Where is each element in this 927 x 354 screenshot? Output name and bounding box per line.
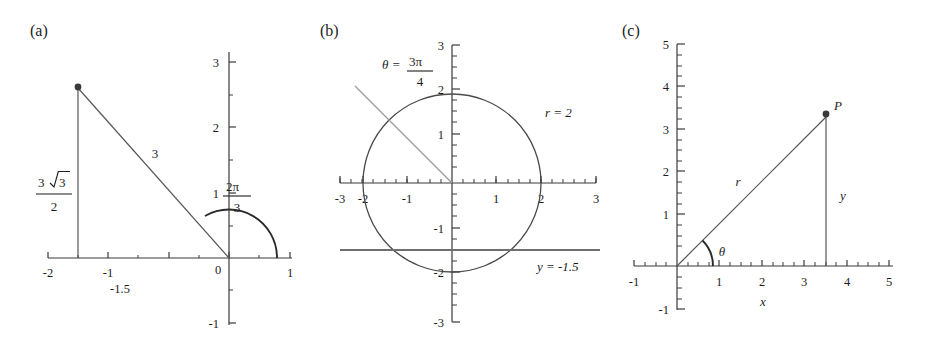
panel-c-ytick-3: 3 bbox=[663, 123, 669, 137]
panel-a-xtick--1: -1 bbox=[103, 266, 113, 280]
panel-b-theta-numerator: 3π bbox=[409, 54, 423, 69]
panel-c-ytick--1: -1 bbox=[659, 303, 669, 317]
panel-b-xtick-3: 3 bbox=[593, 192, 599, 206]
panel-b-label: (b) bbox=[320, 22, 339, 40]
panel-b-theta-denominator: 4 bbox=[417, 74, 424, 89]
panel-c-point-marker bbox=[823, 111, 830, 118]
panel-c-x-axis-label: x bbox=[759, 294, 766, 309]
panel-a-ytick-1: 1 bbox=[213, 187, 219, 201]
panel-a-angle-arc bbox=[205, 210, 277, 258]
panel-a-xtick--2: -2 bbox=[43, 266, 53, 280]
panel-c-x-major-ticks bbox=[634, 260, 889, 266]
panel-b-x-minor-ticks bbox=[340, 178, 596, 183]
panel-c: (c) bbox=[622, 22, 893, 317]
panel-b-xtick-1: 1 bbox=[493, 192, 499, 206]
figure-container: (a) -2 -1 0 bbox=[0, 0, 927, 354]
panel-c-hypotenuse bbox=[677, 117, 826, 266]
panel-b-theta-label: θ = 3π 4 bbox=[382, 54, 433, 89]
panel-b-ytick--1: -1 bbox=[434, 222, 444, 236]
panel-c-point-label: P bbox=[833, 98, 842, 113]
panel-b-y-minor-ticks bbox=[452, 56, 457, 305]
panel-c-xtick-4: 4 bbox=[844, 275, 851, 289]
panel-a-ytick-2: 2 bbox=[213, 121, 219, 135]
panel-a-xtick-0: 0 bbox=[215, 263, 221, 277]
panel-c-xtick-2: 2 bbox=[759, 275, 765, 289]
panel-a-ytick-3: 3 bbox=[213, 56, 219, 70]
three-panel-polar-coordinate-figure: (a) -2 -1 0 bbox=[0, 0, 927, 354]
panel-c-ytick-2: 2 bbox=[663, 165, 669, 179]
panel-c-hypotenuse-label: r bbox=[735, 174, 741, 189]
panel-a-label: (a) bbox=[30, 22, 48, 40]
panel-a-radius-segment bbox=[78, 88, 229, 258]
panel-c-xtick-1: 1 bbox=[716, 275, 722, 289]
panel-c-xtick--1: -1 bbox=[629, 275, 639, 289]
panel-b-ytick-1: 1 bbox=[438, 128, 444, 142]
panel-a-xtick--1point5: -1.5 bbox=[110, 282, 130, 296]
panel-c-xtick-3: 3 bbox=[801, 275, 807, 289]
panel-b: (b) bbox=[320, 22, 600, 330]
panel-a-leg-radicand-3: 3 bbox=[59, 175, 66, 190]
panel-a-leg-denominator-2: 2 bbox=[51, 199, 58, 214]
panel-a-leg-length-label: 3 3 2 bbox=[36, 171, 72, 214]
panel-a-ytick--1: -1 bbox=[209, 317, 219, 331]
panel-a-radius-length-label: 3 bbox=[152, 146, 159, 161]
panel-b-ytick--3: -3 bbox=[434, 316, 444, 330]
panel-a-leg-numerator-3: 3 bbox=[38, 175, 45, 190]
panel-b-hline-label: y = -1.5 bbox=[535, 259, 579, 274]
panel-a-angle-numerator: 2π bbox=[226, 179, 240, 194]
panel-b-xtick--3: -3 bbox=[335, 192, 345, 206]
panel-c-ytick-4: 4 bbox=[663, 80, 670, 94]
panel-c-angle-label: θ bbox=[719, 244, 726, 259]
panel-a-point-marker bbox=[75, 84, 82, 91]
panel-c-vertical-leg-label: y bbox=[838, 188, 846, 203]
panel-a-xtick-1: 1 bbox=[287, 266, 293, 280]
panel-b-circle-label: r = 2 bbox=[545, 105, 572, 120]
panel-c-y-major-ticks bbox=[677, 44, 685, 309]
panel-c-ytick-1: 1 bbox=[663, 208, 669, 222]
panel-a-radical-icon bbox=[50, 171, 59, 187]
panel-c-xtick-5: 5 bbox=[886, 275, 892, 289]
panel-c-label: (c) bbox=[622, 22, 640, 40]
panel-b-xtick--2: -2 bbox=[358, 192, 368, 206]
panel-c-ytick-5: 5 bbox=[663, 38, 669, 52]
panel-b-xtick--1: -1 bbox=[402, 192, 412, 206]
panel-c-angle-arc bbox=[703, 241, 714, 267]
panel-a-x-ticks bbox=[48, 252, 290, 258]
panel-a-angle-denominator: 3 bbox=[234, 200, 241, 215]
panel-b-x-major-ticks bbox=[340, 176, 596, 183]
panel-a: (a) -2 -1 0 bbox=[30, 22, 293, 331]
panel-b-ytick-3: 3 bbox=[438, 39, 444, 53]
panel-b-ytick--2: -2 bbox=[434, 266, 444, 280]
panel-b-theta-equals: θ = bbox=[382, 57, 400, 72]
